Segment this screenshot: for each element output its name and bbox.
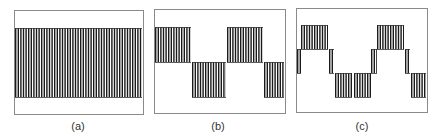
pulse-segment <box>335 73 352 98</box>
pulse-segment <box>371 49 377 74</box>
pulse-segment <box>227 27 263 63</box>
pulse-segment <box>264 62 284 98</box>
pulse-segment <box>301 25 328 50</box>
panel-c <box>297 9 428 113</box>
pulse-segment <box>329 49 334 74</box>
pulse-segment <box>411 73 426 98</box>
panel-a <box>15 11 144 115</box>
panel-label-b: (b) <box>211 120 224 132</box>
pulse-segment <box>354 73 371 98</box>
pulse-segment <box>155 27 191 63</box>
pulse-segment <box>405 49 410 74</box>
pulse-segment <box>377 25 404 50</box>
pwm-waveform-figure <box>0 0 441 140</box>
pulse-segment <box>15 28 142 98</box>
panel-label-a: (a) <box>71 120 84 132</box>
panel-label-c: (c) <box>356 120 369 132</box>
pulse-segment <box>192 62 226 98</box>
pulse-segment <box>297 49 301 74</box>
panel-b <box>155 10 286 114</box>
